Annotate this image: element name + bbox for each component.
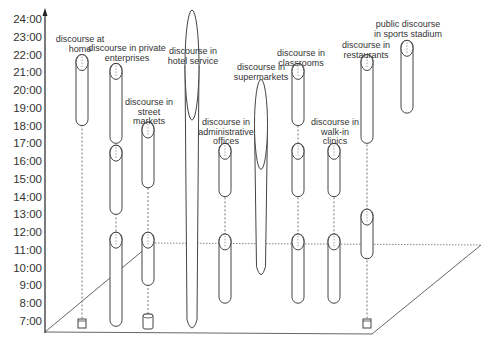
column-label-restaurants: discourse inrestaurants: [342, 41, 390, 60]
column-label-line: supermarkets: [234, 73, 289, 83]
column-street-markets: [142, 122, 154, 329]
y-axis-arrow-icon: [43, 8, 48, 16]
plane-left-edge: [45, 243, 152, 332]
column-label-walk-in-clinics: discourse inwalk-inclinics: [311, 118, 359, 147]
y-axis: [43, 8, 48, 333]
activity-cap: [255, 79, 268, 169]
column-label-line: enterprises: [88, 54, 166, 64]
column-label-line: clinics: [311, 137, 359, 147]
column-label-line: markets: [125, 117, 173, 127]
base-cylinder-top: [143, 314, 153, 318]
column-label-classrooms: discourse inclassrooms: [277, 49, 325, 68]
column-label-line: hotel service: [168, 57, 219, 67]
column-private-enterprises: [110, 63, 122, 326]
column-label-private-enterprises: discourse in privateenterprises: [88, 44, 166, 63]
plane-back-edge: [152, 243, 481, 245]
column-home: [76, 55, 88, 328]
column-classrooms: [292, 63, 304, 303]
column-administrative-offices: [219, 143, 231, 303]
column-supermarkets: [255, 79, 268, 274]
column-label-street-markets: discourse instreetmarkets: [125, 98, 173, 127]
column-label-line: restaurants: [342, 51, 390, 61]
column-label-line: offices: [198, 137, 254, 147]
base-box-icon: [78, 319, 86, 328]
column-label-line: in sports stadium: [374, 30, 442, 40]
column-label-sports-stadium: public discoursein sports stadium: [374, 20, 442, 39]
column-restaurants: [361, 55, 373, 328]
column-walk-in-clinics: [328, 143, 340, 303]
column-label-line: classrooms: [277, 59, 325, 69]
column-label-hotel-service: discourse inhotel service: [168, 47, 219, 66]
column-label-administrative-offices: discourse inadministrativeoffices: [198, 118, 254, 147]
plane-front-edge: [45, 332, 372, 334]
column-sports-stadium: [401, 40, 413, 113]
diagram-canvas: 24:0023:0022:0021:0020:0019:0018:0017:00…: [0, 0, 494, 351]
base-box-icon: [363, 319, 371, 328]
plane-right-edge: [372, 245, 481, 334]
